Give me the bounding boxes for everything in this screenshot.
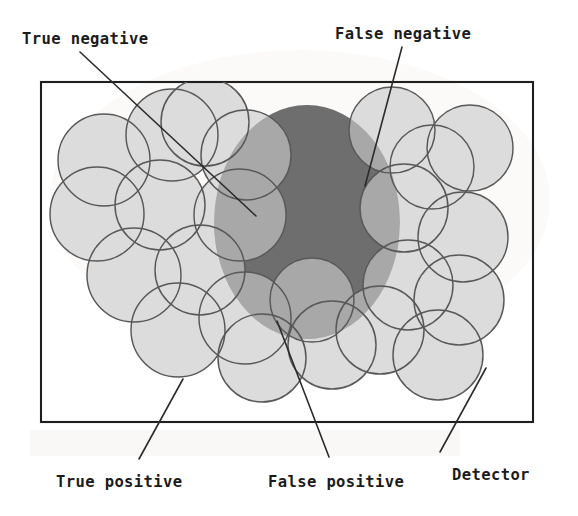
label-true-negative: True negative (22, 30, 149, 48)
label-false-positive: False positive (268, 473, 404, 491)
detection-diagram: True negativeFalse negativeTrue positive… (0, 0, 578, 516)
label-detector: Detector (452, 466, 530, 484)
label-true-positive: True positive (56, 473, 183, 491)
label-false-negative: False negative (335, 25, 471, 43)
